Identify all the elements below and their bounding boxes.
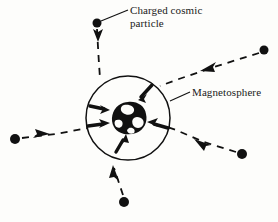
deflect-arrow-right [147,118,168,128]
deflect-arrow-bottom [116,134,129,152]
deflect-arrow-left-lower [88,119,110,128]
travel-arrow-left [33,129,50,138]
travel-arrow-lower-right [194,139,211,151]
travel-arrow-upper-right [200,62,216,72]
particle-dot-bottom [119,197,129,207]
particle-dot-top [93,19,102,28]
particle-dot-upper-right [260,46,269,55]
trajectory-left [22,128,88,138]
diagram-canvas [0,0,278,222]
label-charged-cosmic-particle: Charged cosmic particle [130,4,202,29]
trajectory-lower-right [164,126,236,152]
leader-charged-particle [101,10,128,21]
label-magnetosphere: Magnetosphere [192,86,261,99]
particle-dot-left [10,134,20,144]
magnetosphere-diagram: Charged cosmic particle Magnetosphere [0,0,278,222]
travel-arrow-bottom [109,165,119,181]
deflect-arrow-left-upper [90,105,110,114]
particle-dot-lower-right [237,149,247,159]
earth-globe [112,102,147,134]
deflect-arrow-upper [138,85,152,103]
leader-magnetosphere [170,92,190,101]
